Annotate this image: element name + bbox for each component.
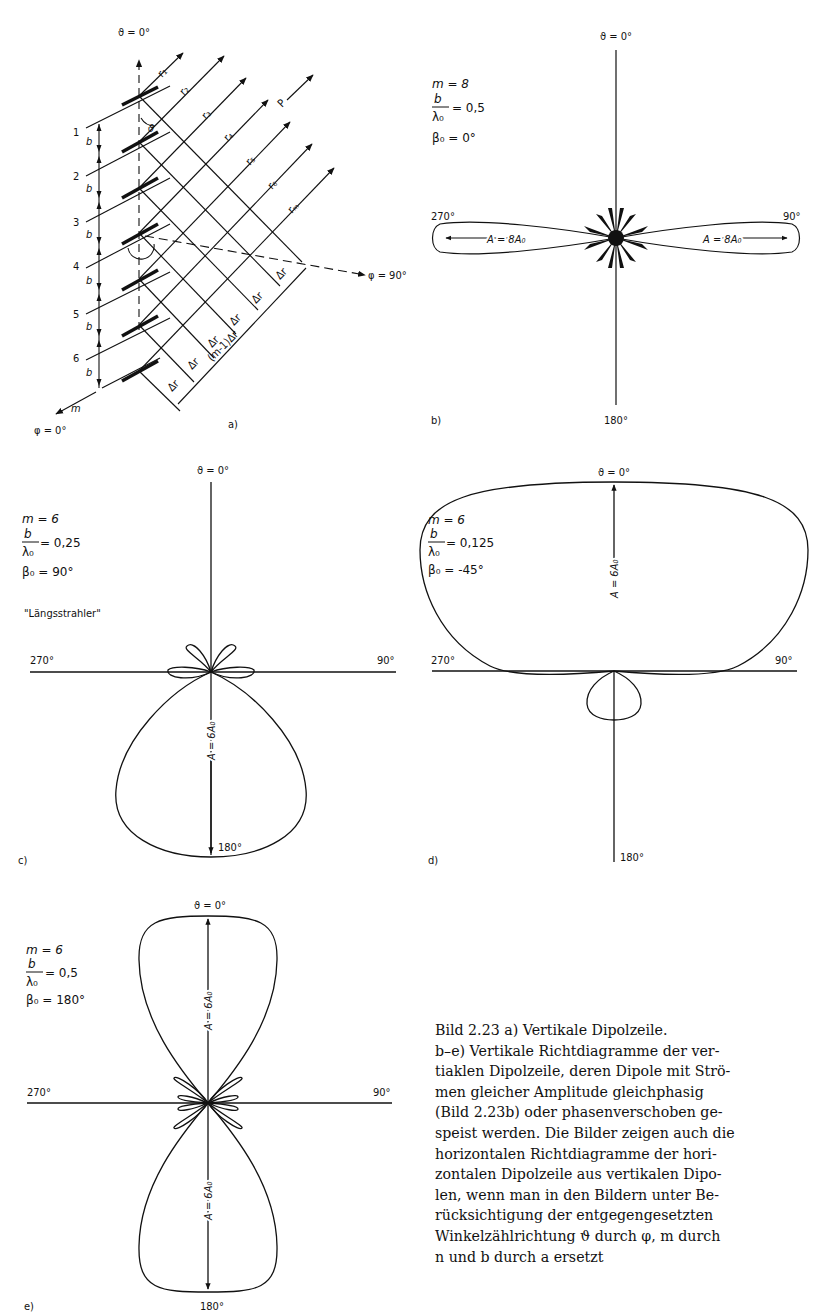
- param-m: m = 6: [428, 513, 465, 527]
- point-p-label: P: [275, 97, 288, 110]
- path-difference-dimension: [178, 268, 306, 404]
- last-element-label: m: [71, 402, 81, 415]
- panel-c-pattern: [30, 482, 396, 857]
- caption-line: n und b durch a ersetzt: [435, 1247, 810, 1268]
- panel-d-label: d): [428, 854, 438, 867]
- angle-label-bottom: 180°: [620, 851, 644, 864]
- spacing-label: b: [86, 228, 92, 241]
- param-beta: β₀ = 180°: [26, 993, 85, 1007]
- param-b-lambda-value: = 0,125: [446, 536, 494, 550]
- panel-a-phi90-label: φ = 90°: [368, 269, 407, 282]
- delta-r-label: Δr: [227, 311, 245, 329]
- angle-label-right: 90°: [783, 210, 801, 223]
- theta-angle-label: ϑ: [148, 122, 154, 135]
- spacing-label: b: [86, 274, 92, 287]
- param-lambda-denominator: λ₀: [428, 545, 440, 559]
- caption-line: tiaklen Dipolzeile, deren Dipole mit Str…: [435, 1061, 810, 1082]
- spacing-label: b: [86, 182, 92, 195]
- panel-a-labels: ϑ = 0° φ = 90° φ = 0° 1 2 3 4 5 6 b b b …: [34, 26, 407, 437]
- delta-r-label: Δr: [165, 377, 183, 395]
- element-number: 4: [73, 260, 79, 273]
- spacing-label: b: [86, 366, 92, 379]
- panel-c-labels: ϑ = 0° 90° 180° 270° m = 6 b λ₀ = 0,25 β…: [18, 464, 395, 867]
- angle-label-bottom: 180°: [604, 414, 628, 427]
- param-b-numerator: b: [24, 527, 32, 541]
- angle-label-left: 270°: [27, 1086, 51, 1099]
- caption-line: men gleicher Amplitude gleichphasig: [435, 1082, 810, 1103]
- param-b-lambda-value: = 0,5: [45, 966, 78, 980]
- angle-label-left: 270°: [431, 210, 455, 223]
- param-beta: β₀ = -45°: [428, 563, 484, 577]
- spacing-label: b: [86, 320, 92, 333]
- delta-r-label: Δr: [185, 355, 203, 373]
- param-beta: β₀ = 0°: [432, 131, 476, 145]
- ray-label: r₄: [221, 129, 236, 144]
- caption-line: Winkelzählrichtung ϑ durch φ, m durch: [435, 1226, 810, 1247]
- angle-label-top: ϑ = 0°: [197, 464, 229, 477]
- panel-e-pattern: [27, 916, 392, 1292]
- ray-label: rₘ: [285, 200, 301, 216]
- right-angle-arc: [128, 244, 154, 259]
- ray-label: r₂: [177, 83, 192, 98]
- figure-caption: Bild 2.23 a) Vertikale Dipolzeile. b–e) …: [435, 1020, 810, 1267]
- spacing-label: b: [86, 135, 92, 148]
- caption-line: speist werden. Die Bilder zeigen auch di…: [435, 1123, 810, 1144]
- caption-line: horizontalen Richtdiagramme der hori-: [435, 1144, 810, 1165]
- angle-label-left: 270°: [30, 654, 54, 667]
- param-b-numerator: b: [430, 527, 438, 541]
- caption-line: (Bild 2.23b) oder phasenverschoben ge-: [435, 1102, 810, 1123]
- param-m: m = 8: [432, 77, 469, 91]
- amplitude-label: A = 6A₀: [608, 560, 621, 599]
- caption-line: len, wenn man in den Bildern unter Be-: [435, 1185, 810, 1206]
- panel-a-theta-label: ϑ = 0°: [118, 26, 150, 39]
- param-b-lambda-value: = 0,5: [452, 101, 485, 115]
- amplitude-label-top: A = 6A₀: [202, 992, 215, 1031]
- element-number: 3: [73, 216, 79, 229]
- angle-label-top: ϑ = 0°: [600, 30, 632, 43]
- amplitude-label-bottom: A = 6A₀: [202, 1182, 215, 1221]
- angle-label-top: ϑ = 0°: [598, 466, 630, 479]
- caption-line: Bild 2.23 a) Vertikale Dipolzeile.: [435, 1020, 810, 1041]
- param-lambda-denominator: λ₀: [22, 545, 34, 559]
- ray-label: r₅: [243, 153, 258, 168]
- delta-r-label: Δr: [273, 265, 291, 283]
- panel-b-pattern: [433, 50, 800, 405]
- param-b-lambda-value: = 0,25: [40, 536, 81, 550]
- param-m: m = 6: [22, 512, 59, 526]
- element-number: 6: [73, 352, 79, 365]
- pattern-note: "Längsstrahler": [24, 607, 101, 620]
- param-m: m = 6: [26, 943, 63, 957]
- param-beta: β₀ = 90°: [22, 565, 73, 579]
- panel-a-label: a): [228, 418, 238, 431]
- phi-90-axis-arrow: [145, 236, 365, 275]
- panel-c-label: c): [18, 854, 27, 867]
- angle-label-right: 90°: [775, 654, 793, 667]
- ray-label: r₃: [199, 107, 214, 122]
- amplitude-label-left: A = 8A₀: [486, 233, 525, 246]
- angle-label-top: ϑ = 0°: [194, 899, 226, 912]
- angle-label-left: 270°: [431, 654, 455, 667]
- caption-line: rücksichtigung der entgegengesetzten: [435, 1205, 810, 1226]
- caption-line: b–e) Vertikale Richtdiagramme der ver-: [435, 1041, 810, 1062]
- panel-e-labels: ϑ = 0° 90° 180° 270° m = 6 b λ₀ = 0,5 β₀…: [24, 899, 391, 1313]
- param-lambda-denominator: λ₀: [432, 110, 444, 124]
- param-lambda-denominator: λ₀: [26, 975, 38, 989]
- element-number: 1: [73, 126, 79, 139]
- angle-label-bottom: 180°: [218, 841, 242, 854]
- angle-label-right: 90°: [373, 1086, 391, 1099]
- panel-e-label: e): [24, 1300, 34, 1313]
- panel-b-label: b): [431, 414, 441, 427]
- param-b-numerator: b: [28, 957, 36, 971]
- caption-line: zontalen Dipolzeile aus vertikalen Dipo-: [435, 1164, 810, 1185]
- element-number: 5: [73, 308, 79, 321]
- angle-label-bottom: 180°: [200, 1300, 224, 1313]
- param-b-numerator: b: [434, 92, 442, 106]
- amplitude-label: A = 6A₀: [205, 722, 218, 761]
- panel-a-phi0-label: φ = 0°: [34, 424, 66, 437]
- angle-label-right: 90°: [377, 654, 395, 667]
- element-number: 2: [73, 170, 79, 183]
- amplitude-label-right: A = 8A₀: [702, 233, 741, 246]
